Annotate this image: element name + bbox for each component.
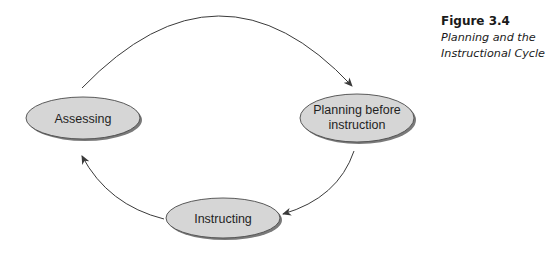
figure-title: Planning and the Instructional Cycle <box>441 31 545 60</box>
node-label-assessing: Assessing <box>55 112 112 126</box>
node-label-instructing: Instructing <box>194 212 252 226</box>
node-instructing: Instructing <box>166 198 282 240</box>
node-label-planning-line1: Planning before <box>313 103 401 117</box>
edge-instructing-to-assessing <box>82 156 164 219</box>
edge-assessing-to-planning <box>82 16 352 88</box>
figure-number: Figure 3.4 <box>441 14 510 28</box>
node-assessing: Assessing <box>26 97 142 141</box>
edge-planning-to-instructing <box>283 151 354 214</box>
figure-caption: Figure 3.4 Planning and the Instructiona… <box>441 13 552 62</box>
node-planning: Planning before instruction <box>300 94 416 144</box>
node-label-planning-line2: instruction <box>329 118 386 132</box>
